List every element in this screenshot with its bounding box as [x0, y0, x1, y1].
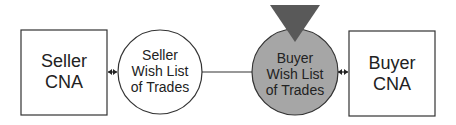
buyer-wish-list-label: Buyer Wish List of Trades	[252, 50, 338, 98]
seller-cna-label: Seller CNA	[21, 51, 107, 92]
buyer-cna-label: Buyer CNA	[349, 53, 435, 94]
buyer-wish-list-line3: of Trades	[252, 82, 338, 98]
buyer-wish-list-line1: Buyer	[252, 50, 338, 66]
seller-wish-list-label: Seller Wish List of Trades	[118, 47, 202, 95]
seller-bidirectional-arrow-icon	[108, 69, 117, 75]
seller-cna-line2: CNA	[21, 72, 107, 93]
buyer-bidirectional-arrow-icon	[338, 69, 348, 75]
seller-wish-list-line1: Seller	[118, 47, 202, 63]
buyer-cna-line1: Buyer	[349, 53, 435, 74]
seller-wish-list-line2: Wish List	[118, 63, 202, 79]
buyer-cna-line2: CNA	[349, 74, 435, 95]
buyer-wish-list-line2: Wish List	[252, 66, 338, 82]
seller-cna-line1: Seller	[21, 51, 107, 72]
seller-wish-list-line3: of Trades	[118, 79, 202, 95]
